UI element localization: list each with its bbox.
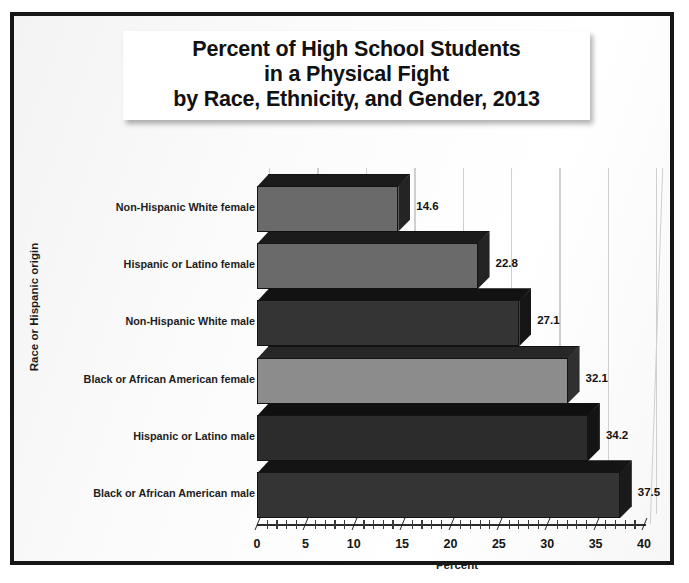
x-axis-minor-tick	[392, 520, 393, 529]
value-label: 34.2	[606, 429, 628, 441]
x-axis-title: Percent	[257, 559, 657, 571]
bar-front-face	[257, 472, 620, 518]
x-axis-tick-label: 35	[576, 537, 616, 551]
x-axis-minor-tick	[625, 520, 626, 529]
bar-4[interactable]	[257, 346, 580, 404]
x-axis-minor-tick	[615, 520, 616, 529]
bar-front-face	[257, 243, 478, 289]
category-label: Non-Hispanic White female	[0, 201, 255, 213]
x-axis-tick-label: 25	[479, 537, 519, 551]
x-axis-minor-tick	[518, 520, 519, 529]
value-label: 37.5	[638, 486, 660, 498]
chart-title: Percent of High School Students in a Phy…	[123, 31, 590, 120]
bar-front-face	[257, 358, 568, 404]
value-label: 27.1	[537, 314, 559, 326]
x-axis-minor-tick	[315, 520, 316, 529]
bar-1[interactable]	[257, 174, 410, 232]
x-axis-minor-tick	[441, 520, 442, 529]
value-label: 22.8	[496, 257, 518, 269]
y-axis-title: Race or Hispanic origin	[28, 217, 40, 397]
chart-frame: Percent of High School Students in a Phy…	[10, 12, 674, 565]
x-axis-tick-label: 5	[285, 537, 325, 551]
bar-5[interactable]	[257, 403, 600, 461]
x-axis-minor-tick	[276, 520, 277, 529]
x-axis-minor-tick	[557, 520, 558, 529]
category-label: Black or African American male	[0, 487, 255, 499]
bar-front-face	[257, 300, 519, 346]
x-axis-minor-tick	[373, 520, 374, 529]
value-label: 14.6	[416, 200, 438, 212]
x-axis-minor-tick	[489, 520, 490, 529]
x-axis-minor-tick	[567, 520, 568, 529]
x-axis-tick-label: 0	[237, 537, 277, 551]
category-label: Black or African American female	[0, 373, 255, 385]
x-axis-minor-tick	[538, 520, 539, 529]
chart-title-line-3: by Race, Ethnicity, and Gender, 2013	[127, 87, 586, 112]
x-axis-minor-tick	[576, 520, 577, 529]
x-axis-minor-tick	[470, 520, 471, 529]
x-axis-tick-label: 15	[382, 537, 422, 551]
x-axis-minor-tick	[334, 520, 335, 529]
x-axis-tick-label: 40	[624, 537, 664, 551]
x-axis-minor-tick	[528, 520, 529, 529]
bar-3[interactable]	[257, 288, 531, 346]
x-axis-minor-tick	[383, 520, 384, 529]
bar-6[interactable]	[257, 460, 632, 518]
bar-front-face	[257, 415, 588, 461]
x-axis-tick-label: 20	[431, 537, 471, 551]
category-label: Hispanic or Latino female	[0, 258, 255, 270]
x-axis-minor-tick	[325, 520, 326, 529]
x-axis-minor-tick	[634, 520, 635, 529]
value-label: 32.1	[586, 372, 608, 384]
x-axis-minor-tick	[480, 520, 481, 529]
x-axis-tick-label: 30	[527, 537, 567, 551]
x-axis-minor-tick	[586, 520, 587, 529]
x-axis-minor-tick	[344, 520, 345, 529]
category-label: Hispanic or Latino male	[0, 430, 255, 442]
x-axis-minor-tick	[460, 520, 461, 529]
x-axis-minor-tick	[412, 520, 413, 529]
bar-front-face	[257, 186, 398, 232]
x-axis-minor-tick	[605, 520, 606, 529]
x-axis-minor-tick	[509, 520, 510, 529]
x-axis-minor-tick	[363, 520, 364, 529]
chart-title-line-1: Percent of High School Students	[127, 37, 586, 62]
x-axis-minor-tick	[431, 520, 432, 529]
x-axis-tick-label: 10	[334, 537, 374, 551]
chart-title-line-2: in a Physical Fight	[127, 62, 586, 87]
x-axis-minor-tick	[267, 520, 268, 529]
x-axis-minor-tick	[421, 520, 422, 529]
x-axis-minor-tick	[296, 520, 297, 529]
x-axis-minor-tick	[286, 520, 287, 529]
category-label: Non-Hispanic White male	[0, 315, 255, 327]
bar-2[interactable]	[257, 231, 490, 289]
